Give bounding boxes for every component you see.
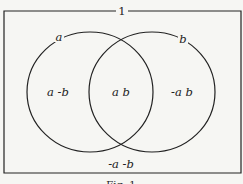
set-a-circle: [27, 32, 153, 152]
region-a-and-b: a b: [112, 85, 130, 99]
universe-label: 1: [118, 4, 125, 18]
set-a-label: a: [56, 30, 63, 44]
venn-diagram: 1 a b a -b a b -a b -a -b Fig. 1: [0, 0, 243, 184]
figure-caption: Fig. 1: [106, 179, 135, 184]
set-b-circle: [89, 32, 215, 152]
set-b-label: b: [179, 32, 186, 46]
region-a-not-b: a -b: [47, 85, 69, 99]
region-b-not-a: -a b: [171, 85, 193, 99]
region-neither: -a -b: [108, 157, 134, 171]
